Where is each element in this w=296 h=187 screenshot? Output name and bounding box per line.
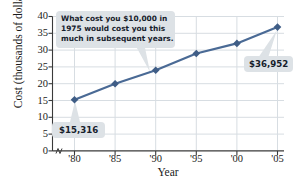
x-tick-90: '90 — [139, 154, 173, 166]
y-axis-title: Cost (thousands of dollars) — [12, 0, 24, 116]
y-tick-15: 15 — [26, 96, 48, 106]
annotation-main-line-1: What cost you $10,000 in — [61, 14, 171, 24]
y-tick-10: 10 — [26, 112, 48, 122]
annotation-main-note: What cost you $10,000 in 1975 would cost… — [56, 11, 175, 48]
annotation-main-line-2: 1975 would cost you this — [61, 24, 171, 34]
y-tick-40: 40 — [26, 11, 48, 21]
x-tick-95: '95 — [179, 154, 213, 166]
x-tick-05: '05 — [261, 154, 295, 166]
y-tick-0: 0 — [26, 146, 48, 156]
y-tick-5: 5 — [26, 129, 48, 139]
y-tick-35: 35 — [26, 28, 48, 38]
y-tick-25: 25 — [26, 62, 48, 72]
y-tick-30: 30 — [26, 45, 48, 55]
x-tick-85: '85 — [98, 154, 132, 166]
chart-figure: 40 35 30 25 20 15 10 5 0 '80 '85 '90 '95… — [0, 0, 296, 187]
y-tick-20: 20 — [26, 79, 48, 89]
x-tick-00: '00 — [220, 154, 254, 166]
annotation-first-value: $15,316 — [52, 122, 105, 138]
axis-break-icon — [56, 149, 62, 154]
annotation-last-value: $36,952 — [244, 56, 293, 72]
x-tick-80: '80 — [58, 154, 92, 166]
annotation-main-line-3: much in subsequent years. — [61, 34, 171, 44]
x-axis-title: Year — [52, 166, 284, 178]
